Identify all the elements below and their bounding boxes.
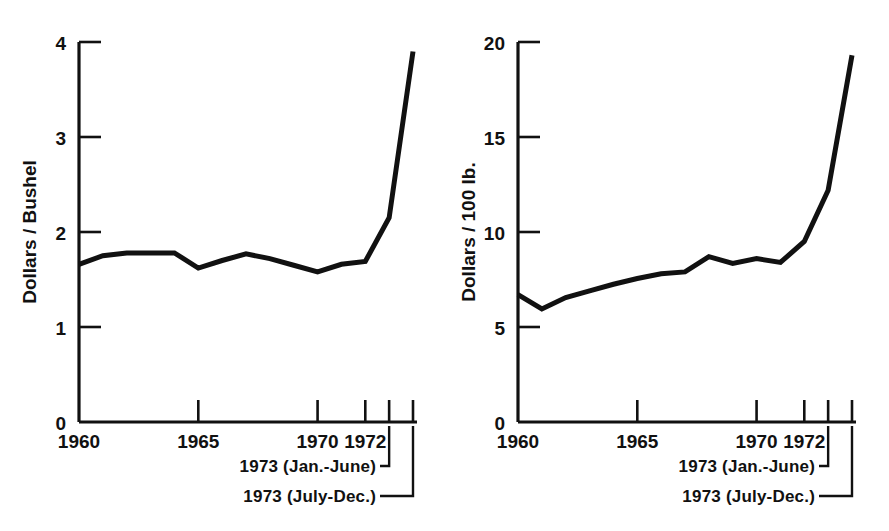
x-tick-marks [637, 400, 852, 422]
y-axis-label: Dollars / 100 lb. [458, 162, 479, 301]
x-tick-labels: 1960196519701972 [58, 431, 387, 452]
annotation-1973-july-dec: 1973 (July-Dec.) [243, 487, 376, 506]
x-tick-label: 1972 [783, 431, 825, 452]
annotation-1973-july-dec: 1973 (July-Dec.) [682, 487, 815, 506]
y-tick-label: 2 [55, 223, 66, 244]
x-tick-label: 1970 [735, 431, 777, 452]
x-tick-label: 1960 [58, 431, 100, 452]
x-tick-label: 1972 [344, 431, 386, 452]
y-tick-label: 4 [55, 33, 66, 54]
x-tick-label: 1960 [497, 431, 539, 452]
y-tick-labels: 05101520 [484, 33, 506, 434]
chart-right-canvas: 05101520 1960196519701972 1973 (Jan.-Jun… [444, 0, 889, 531]
x-tick-label: 1965 [616, 431, 659, 452]
x-tick-marks [198, 400, 413, 422]
chart-panel-right: 05101520 1960196519701972 1973 (Jan.-Jun… [444, 0, 889, 531]
y-tick-label: 3 [55, 128, 66, 149]
annotation-1973-jan-june: 1973 (Jan.-June) [240, 457, 376, 476]
y-tick-marks [518, 42, 540, 327]
x-tick-label: 1965 [177, 431, 220, 452]
data-series-line [79, 52, 413, 272]
chart-left-canvas: 01234 1960196519701972 1973 (Jan.-June) … [0, 0, 445, 531]
annotation-1973-jan-june: 1973 (Jan.-June) [679, 457, 815, 476]
y-tick-labels: 01234 [55, 33, 66, 434]
x-tick-labels: 1960196519701972 [497, 431, 826, 452]
chart-left-svg: 01234 1960196519701972 1973 (Jan.-June) … [0, 0, 445, 531]
figure-root: 01234 1960196519701972 1973 (Jan.-June) … [0, 0, 889, 531]
y-tick-label: 20 [484, 33, 505, 54]
data-series-line [518, 55, 852, 309]
y-axis-label: Dollars / Bushel [19, 160, 40, 304]
y-tick-label: 15 [484, 128, 506, 149]
y-tick-label: 10 [484, 223, 505, 244]
chart-panel-left: 01234 1960196519701972 1973 (Jan.-June) … [0, 0, 445, 531]
y-tick-label: 5 [494, 318, 505, 339]
chart-right-svg: 05101520 1960196519701972 1973 (Jan.-Jun… [444, 0, 889, 531]
x-tick-label: 1970 [296, 431, 338, 452]
y-tick-label: 1 [55, 318, 66, 339]
y-tick-marks [79, 42, 101, 327]
